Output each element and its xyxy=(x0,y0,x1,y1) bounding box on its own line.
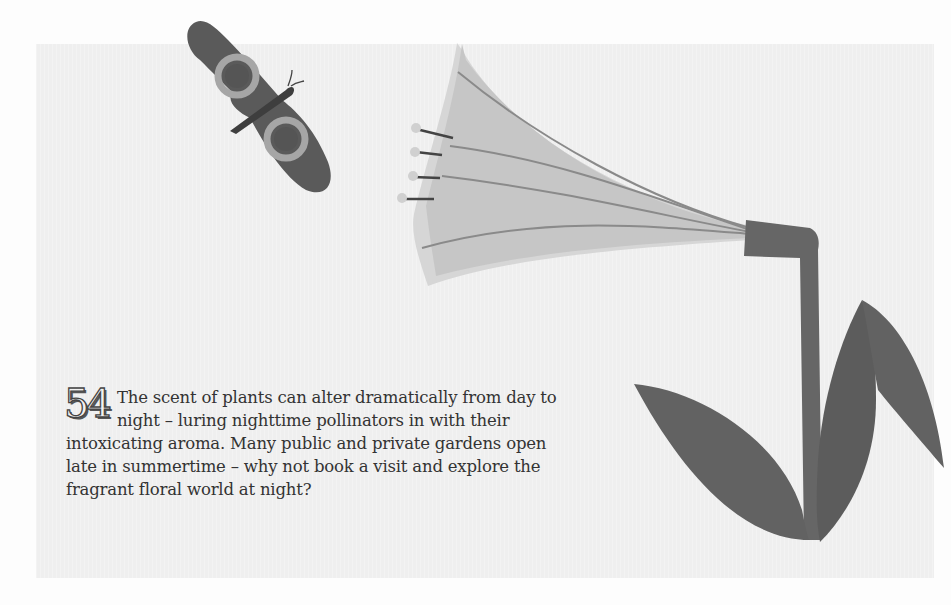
fact-text: The scent of plants can alter dramatical… xyxy=(66,388,556,499)
fact-number: 54 xyxy=(64,384,109,422)
illustration-art xyxy=(0,0,951,605)
fact-text-block: 54 The scent of plants can alter dramati… xyxy=(66,386,566,501)
stem-and-leaves-icon xyxy=(634,220,944,542)
moth-icon xyxy=(187,21,330,192)
lily-flower-icon xyxy=(397,43,752,286)
